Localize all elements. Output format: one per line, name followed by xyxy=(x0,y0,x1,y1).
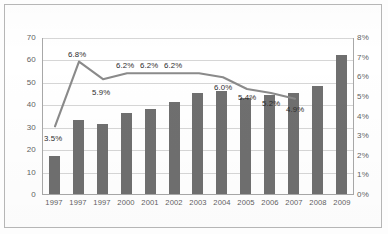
right-axis-tick: 7% xyxy=(357,53,387,62)
left-axis-tick: 70 xyxy=(10,33,36,42)
right-axis-tick: 8% xyxy=(357,33,387,42)
right-axis-tick: 2% xyxy=(357,151,387,160)
category-tick: 2003 xyxy=(186,198,210,212)
right-axis-tick: 6% xyxy=(357,72,387,81)
left-axis-tick: 0 xyxy=(10,190,36,199)
percent-line-series xyxy=(43,38,355,195)
percent-label: 6.2% xyxy=(140,61,158,70)
right-axis-tick: 0% xyxy=(357,190,387,199)
category-tick: 1997 xyxy=(90,198,114,212)
percent-label: 3.5% xyxy=(44,134,62,143)
percent-label: 6.8% xyxy=(68,50,86,59)
left-axis-tick: 40 xyxy=(10,100,36,109)
category-tick: 2006 xyxy=(258,198,282,212)
category-tick: 2000 xyxy=(114,198,138,212)
chart-frame: 010203040506070 0%1%2%3%4%5%6%7%8% 3.5%6… xyxy=(4,4,382,228)
category-tick: 2005 xyxy=(234,198,258,212)
category-tick: 2004 xyxy=(210,198,234,212)
chart-page: 010203040506070 0%1%2%3%4%5%6%7%8% 3.5%6… xyxy=(0,0,388,234)
plot-area: 3.5%6.8%5.9%6.2%6.2%6.2%6.0%5.4%5.2%4.9% xyxy=(42,38,354,195)
percent-label: 6.2% xyxy=(164,61,182,70)
category-tick: 2009 xyxy=(330,198,354,212)
category-tick: 2008 xyxy=(306,198,330,212)
category-tick: 2001 xyxy=(138,198,162,212)
left-axis-tick: 50 xyxy=(10,78,36,87)
right-axis-tick: 5% xyxy=(357,92,387,101)
left-axis-tick: 30 xyxy=(10,123,36,132)
percent-label: 5.2% xyxy=(262,99,280,108)
percent-label: 6.2% xyxy=(116,61,134,70)
percent-label: 5.9% xyxy=(92,88,110,97)
category-tick: 2002 xyxy=(162,198,186,212)
right-axis-tick: 1% xyxy=(357,170,387,179)
percent-line-path xyxy=(55,62,295,127)
left-axis-tick: 20 xyxy=(10,145,36,154)
right-axis-tick: 4% xyxy=(357,112,387,121)
percent-label: 5.4% xyxy=(238,93,256,102)
category-axis: 1997199719972000200120022003200420052006… xyxy=(42,198,354,212)
left-axis-tick: 60 xyxy=(10,55,36,64)
percent-label: 4.9% xyxy=(286,105,304,114)
left-axis-tick: 10 xyxy=(10,168,36,177)
category-tick: 2007 xyxy=(282,198,306,212)
right-axis-tick: 3% xyxy=(357,131,387,140)
percent-label: 6.0% xyxy=(214,83,232,92)
category-tick: 1997 xyxy=(66,198,90,212)
category-tick: 1997 xyxy=(42,198,66,212)
